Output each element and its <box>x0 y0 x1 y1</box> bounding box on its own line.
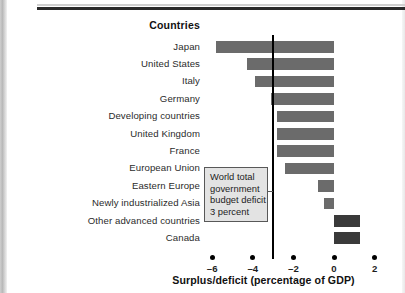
axis-tick-dot <box>332 255 337 260</box>
bar-row-label: Canada <box>0 232 200 243</box>
callout-leader-line <box>268 191 273 192</box>
bar <box>277 111 334 123</box>
bar <box>255 76 334 88</box>
bar-row: Germany <box>0 91 405 108</box>
axis-tick-label: 0 <box>319 263 349 274</box>
bar-row: Canada <box>0 230 405 247</box>
bar <box>277 128 334 140</box>
axis-title-text: Surplus/deficit (percentage of GDP) <box>172 274 354 286</box>
bar-chart-plot: JapanUnited StatesItalyGermanyDeveloping… <box>0 0 405 293</box>
bar-row: United States <box>0 56 405 73</box>
bar-row: European Union <box>0 160 405 177</box>
world-total-callout: World totalgovernmentbudget deficit3 per… <box>204 167 268 222</box>
bar-row: France <box>0 143 405 160</box>
bar-row-label: European Union <box>0 162 200 173</box>
bar <box>216 41 334 53</box>
bar-row: Newly industrialized Asia <box>0 195 405 212</box>
bar <box>334 215 360 227</box>
bar <box>247 58 334 70</box>
bar <box>318 180 334 192</box>
callout-line: World total <box>210 171 262 183</box>
bar <box>271 93 334 105</box>
axis-tick-dot <box>210 255 215 260</box>
axis-tick-label: –2 <box>278 263 308 274</box>
bar-row-label: Eastern Europe <box>0 180 200 191</box>
world-total-reference-line <box>272 35 274 260</box>
callout-line: budget deficit <box>210 194 262 206</box>
bar-row-label: United Kingdom <box>0 128 200 139</box>
axis-tick-dot <box>291 255 296 260</box>
bar-row: United Kingdom <box>0 126 405 143</box>
bar-row-label: Newly industrialized Asia <box>0 197 200 208</box>
axis-tick-dot <box>250 255 255 260</box>
bar-row-label: Germany <box>0 93 200 104</box>
bar-row: Japan <box>0 39 405 56</box>
bar-row: Italy <box>0 73 405 90</box>
axis-title: Surplus/deficit (percentage of GDP) <box>0 274 405 286</box>
bar-row: Developing countries <box>0 108 405 125</box>
axis-tick-label: –4 <box>238 263 268 274</box>
bar-row: Other advanced countries <box>0 213 405 230</box>
axis-tick-label: –6 <box>197 263 227 274</box>
bar-row-label: France <box>0 145 200 156</box>
callout-line: 3 percent <box>210 206 262 218</box>
axis-tick-label: 2 <box>360 263 390 274</box>
axis-tick-dot <box>372 255 377 260</box>
bar-row-label: Japan <box>0 41 200 52</box>
bar-row: Eastern Europe <box>0 178 405 195</box>
bar-row-label: Developing countries <box>0 110 200 121</box>
callout-line: government <box>210 183 262 195</box>
bar-row-label: Other advanced countries <box>0 215 200 226</box>
figure-root: Countries JapanUnited StatesItalyGermany… <box>0 0 405 293</box>
bar <box>277 145 334 157</box>
bar-row-label: Italy <box>0 75 200 86</box>
bar <box>324 198 334 210</box>
bar <box>285 163 334 175</box>
bar-row-label: United States <box>0 58 200 69</box>
bar <box>334 232 360 244</box>
